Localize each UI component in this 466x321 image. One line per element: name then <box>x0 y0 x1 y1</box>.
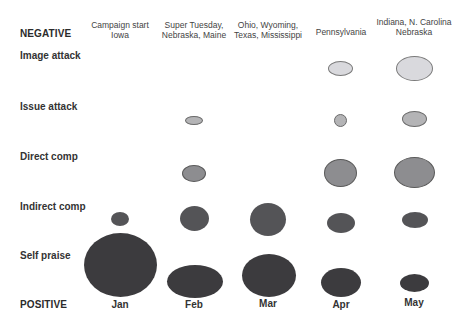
bubble-self-praise-may <box>400 274 429 292</box>
month-label-apr: Apr <box>316 299 366 310</box>
positive-axis-label: POSITIVE <box>20 299 67 310</box>
column-header-may: Indiana, N. Carolina Nebraska <box>359 17 466 37</box>
row-label-image-attack: Image attack <box>20 50 81 61</box>
month-label-may: May <box>389 297 439 308</box>
row-label-direct-comp: Direct comp <box>20 151 78 162</box>
bubble-indirect-comp-jan <box>111 212 129 226</box>
month-label-mar: Mar <box>243 298 293 309</box>
row-label-issue-attack: Issue attack <box>20 101 77 112</box>
bubble-indirect-comp-may <box>402 212 428 228</box>
bubble-image-attack-may <box>396 56 433 81</box>
month-label-jan: Jan <box>95 299 145 310</box>
bubble-indirect-comp-mar <box>250 203 286 236</box>
bubble-direct-comp-may <box>394 157 435 188</box>
bubble-issue-attack-apr <box>334 114 347 127</box>
row-label-indirect-comp: Indirect comp <box>20 201 86 212</box>
row-label-self-praise: Self praise <box>20 250 71 261</box>
column-header-line1: Indiana, N. Carolina <box>359 17 466 27</box>
negative-axis-label: NEGATIVE <box>20 28 71 39</box>
column-header-line2: Nebraska <box>359 27 466 37</box>
bubble-indirect-comp-apr <box>327 213 355 233</box>
bubble-self-praise-feb <box>167 265 223 298</box>
month-label-feb: Feb <box>169 299 219 310</box>
bubble-self-praise-mar <box>242 254 296 297</box>
bubble-issue-attack-may <box>402 111 427 127</box>
bubble-self-praise-jan <box>84 233 157 297</box>
bubble-direct-comp-feb <box>182 165 206 182</box>
bubble-self-praise-apr <box>321 268 361 297</box>
bubble-indirect-comp-feb <box>180 206 209 231</box>
bubble-direct-comp-apr <box>324 159 357 187</box>
bubble-issue-attack-feb <box>185 116 203 125</box>
bubble-chart: NEGATIVE POSITIVE Image attack Issue att… <box>0 0 466 321</box>
bubble-image-attack-apr <box>328 61 353 76</box>
